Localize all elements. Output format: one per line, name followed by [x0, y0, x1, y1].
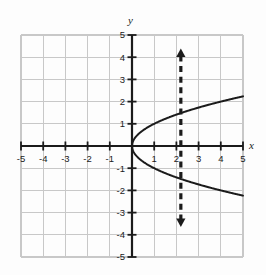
- x-tick-label: -4: [39, 153, 47, 164]
- y-tick-label: 5: [120, 29, 125, 40]
- y-tick-label: -5: [117, 251, 125, 262]
- coordinate-plane-svg: -5-4-3-2-112345 54321-1-2-3-4-5 x y: [0, 0, 266, 275]
- x-tick-label: -5: [17, 153, 25, 164]
- x-tick-label: -3: [61, 153, 69, 164]
- x-tick-label: 1: [152, 153, 157, 164]
- y-tick-label: 1: [120, 118, 125, 129]
- y-tick-label: 2: [120, 96, 125, 107]
- x-tick-label: 2: [174, 153, 179, 164]
- x-axis-label: x: [248, 139, 254, 151]
- x-tick-label: 3: [196, 153, 201, 164]
- x-tick-label: 5: [240, 153, 245, 164]
- y-tick-label: -2: [117, 185, 125, 196]
- x-tick-label: -2: [83, 153, 91, 164]
- x-tick-label: -1: [106, 153, 114, 164]
- y-tick-label: 4: [120, 52, 125, 63]
- y-tick-label: -1: [117, 163, 125, 174]
- y-tick-label: 3: [120, 74, 125, 85]
- y-tick-label: -3: [117, 207, 125, 218]
- graph-figure: -5-4-3-2-112345 54321-1-2-3-4-5 x y: [0, 0, 266, 275]
- y-tick-label: -4: [117, 229, 125, 240]
- y-axis-label: y: [127, 14, 133, 26]
- x-tick-label: 4: [218, 153, 223, 164]
